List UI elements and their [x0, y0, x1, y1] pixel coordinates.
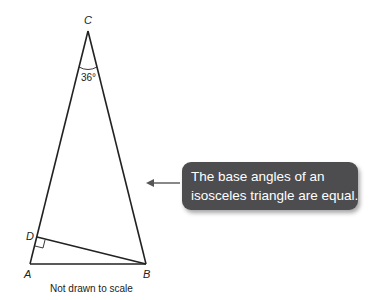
angle-c-value: 36°	[81, 72, 96, 83]
callout-line-2: isosceles triangle are equal.	[191, 186, 358, 205]
scale-note: Not drawn to scale	[50, 283, 133, 294]
side-ac	[30, 31, 88, 264]
label-d: D	[26, 230, 34, 242]
segment-bd	[37, 237, 146, 264]
label-b: B	[143, 268, 150, 280]
callout-line-1: The base angles of an	[191, 167, 358, 186]
label-a: A	[23, 268, 31, 280]
callout-box: The base angles of an isosceles triangle…	[182, 162, 358, 210]
side-bc	[88, 31, 146, 264]
label-c: C	[84, 14, 92, 26]
angle-arc-c	[79, 67, 97, 70]
arrow-icon	[146, 179, 180, 187]
right-angle-marker	[35, 240, 45, 248]
triangle-diagram: C D A B 36° Not drawn to scale	[0, 0, 372, 300]
